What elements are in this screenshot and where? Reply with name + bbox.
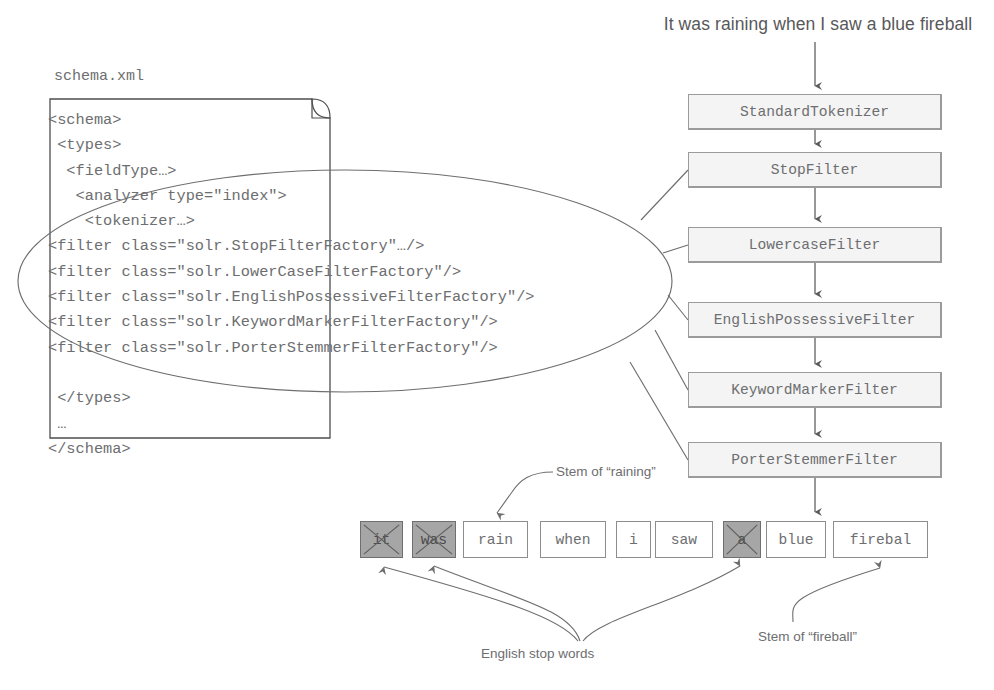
leader-stem-raining [497, 472, 553, 513]
pipeline-stage-porterstemmerfilter[interactable]: PorterStemmerFilter [688, 442, 942, 478]
pipeline-stage-keywordmarkerfilter[interactable]: KeywordMarkerFilter [688, 372, 942, 408]
pipeline-stage-label: EnglishPossessiveFilter [714, 312, 915, 328]
annotation-stem-of-fireball: Stem of “fireball” [758, 629, 857, 644]
annotation-english-stop-words: English stop words [481, 646, 594, 661]
schema-file-label: schema.xml [54, 68, 144, 85]
input-sentence: It was raining when I saw a blue firebal… [641, 14, 994, 35]
token[interactable]: saw [655, 521, 713, 558]
filter-to-stage-connectors [630, 170, 688, 460]
pipeline-stage-stopfilter[interactable]: StopFilter [688, 152, 942, 188]
leader-english-stop-words [384, 566, 740, 641]
pipeline-stage-label: KeywordMarkerFilter [731, 382, 897, 398]
annotation-stem-of-raining: Stem of “raining” [556, 464, 656, 479]
pipeline-stage-label: StandardTokenizer [740, 104, 889, 120]
token-label: when [555, 532, 590, 548]
token-label: it [373, 532, 391, 548]
pipeline-stage-label: LowercaseFilter [749, 237, 880, 253]
token-label: a [738, 532, 747, 548]
token-removed[interactable]: was [412, 521, 456, 558]
diagram-canvas: It was raining when I saw a blue firebal… [0, 0, 994, 690]
pipeline-stage-standardtokenizer[interactable]: StandardTokenizer [688, 94, 942, 130]
token-label: blue [778, 532, 813, 548]
pipeline-stage-englishpossessivefilter[interactable]: EnglishPossessiveFilter [688, 302, 942, 338]
leader-stem-fireball [793, 568, 880, 622]
token-removed[interactable]: a [723, 521, 761, 558]
token-removed[interactable]: it [360, 521, 403, 558]
token-label: rain [478, 532, 513, 548]
token[interactable]: i [616, 521, 651, 558]
token-label: saw [671, 532, 697, 548]
schema-document-outline [50, 99, 330, 438]
token-label: firebal [850, 532, 911, 548]
pipeline-stage-lowercasefilter[interactable]: LowercaseFilter [688, 227, 942, 263]
token[interactable]: firebal [833, 521, 928, 558]
token[interactable]: rain [463, 521, 528, 558]
pipeline-stage-label: PorterStemmerFilter [731, 452, 897, 468]
token-label: was [421, 532, 447, 548]
token[interactable]: blue [766, 521, 826, 558]
pipeline-stage-label: StopFilter [771, 162, 859, 178]
token[interactable]: when [540, 521, 606, 558]
token-label: i [629, 532, 638, 548]
